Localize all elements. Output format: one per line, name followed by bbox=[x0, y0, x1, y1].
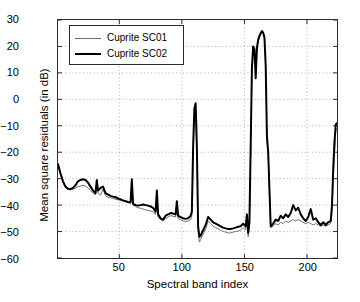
y-tick-label: −40 bbox=[0, 200, 19, 211]
legend-label-sc02: Cuprite SC02 bbox=[107, 49, 167, 59]
y-tick-label: −10 bbox=[0, 120, 19, 131]
legend-item-sc01: Cuprite SC01 bbox=[75, 30, 178, 46]
y-tick-label: 10 bbox=[7, 67, 19, 78]
figure-canvas: 3020100−10−20−30−40−50−60 50100150200 Sp… bbox=[0, 0, 360, 302]
legend-label-sc01: Cuprite SC01 bbox=[107, 33, 167, 43]
y-tick-label: 20 bbox=[7, 40, 19, 51]
legend-line-swatch-sc02 bbox=[75, 53, 101, 55]
x-tick-label: 50 bbox=[113, 262, 125, 273]
legend-item-sc02: Cuprite SC02 bbox=[75, 46, 178, 62]
x-tick-label: 100 bbox=[173, 262, 191, 273]
x-tick-label: 150 bbox=[236, 262, 254, 273]
x-tick-label: 200 bbox=[299, 262, 317, 273]
y-tick-label: 30 bbox=[7, 14, 19, 25]
y-axis-title: Mean square residuals (in dB) bbox=[38, 25, 50, 265]
x-axis-title: Spectral band index bbox=[57, 278, 338, 290]
y-tick-label: 0 bbox=[13, 94, 19, 105]
y-tick-label: −20 bbox=[0, 147, 19, 158]
legend-line-swatch-sc01 bbox=[75, 38, 101, 39]
y-tick-label: −50 bbox=[0, 227, 19, 238]
y-tick-label: −30 bbox=[0, 174, 19, 185]
legend-box: Cuprite SC01 Cuprite SC02 bbox=[69, 25, 184, 65]
y-tick-label: −60 bbox=[0, 254, 19, 265]
